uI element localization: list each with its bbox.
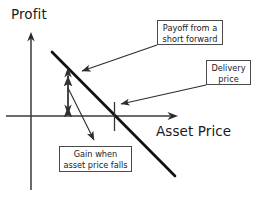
figure-canvas: Profit Asset Price Payoff from a short f… <box>0 0 258 198</box>
callout-delivery-line-1: Delivery <box>210 63 247 74</box>
callout-gain-when-asset-price-falls: Gain when asset price falls <box>59 146 132 172</box>
callout-gain-line-1: Gain when <box>63 149 128 160</box>
callout-delivery-line-2: price <box>210 74 247 85</box>
gain-callout-leader <box>68 88 94 140</box>
x-axis <box>6 112 178 120</box>
callout-payoff-line-2: short forward <box>161 34 219 45</box>
x-axis-label: Asset Price <box>156 125 231 139</box>
callout-payoff-line-1: Payoff from a <box>161 23 219 34</box>
callout-gain-line-2: asset price falls <box>63 160 128 171</box>
callout-delivery-price: Delivery price <box>206 60 251 85</box>
delivery-callout-leader <box>121 85 206 104</box>
gain-measure-arrow <box>64 67 71 115</box>
payoff-callout-leader <box>82 45 157 71</box>
y-axis <box>27 32 35 190</box>
y-axis-label: Profit <box>11 8 47 22</box>
callout-payoff-from-short-forward: Payoff from a short forward <box>157 20 223 45</box>
